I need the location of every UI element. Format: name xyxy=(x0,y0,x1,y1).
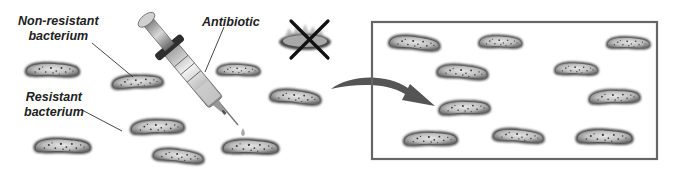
resistant-bacterium xyxy=(492,127,546,145)
resistant-leader-line xyxy=(82,110,122,131)
antibiotic-resistance-diagram: Non-resistant bacterium Resistant bacter… xyxy=(0,0,676,178)
resistant-bacterium xyxy=(436,62,490,81)
antibiotic-label-text: Antibiotic xyxy=(202,15,260,30)
bacterium xyxy=(25,62,81,78)
resistant-bacterium xyxy=(575,128,633,145)
resistant-bacteria-population xyxy=(388,33,651,148)
resistant-bacterium xyxy=(588,87,642,106)
non-resistant-label-line2: bacterium xyxy=(18,29,99,44)
antibiotic-drop xyxy=(241,128,245,136)
killed-bacterium xyxy=(279,21,331,58)
resistant-bacterium xyxy=(478,35,523,49)
bacterium xyxy=(221,138,279,155)
resistant-bacterium xyxy=(438,98,492,117)
bacterium xyxy=(33,137,91,154)
non-resistant-label: Non-resistant bacterium xyxy=(18,14,99,44)
non-resistant-leader-line xyxy=(92,43,133,77)
resistant-bacterium xyxy=(554,62,599,76)
diagram-canvas xyxy=(0,0,676,178)
antibiotic-label: Antibiotic xyxy=(202,15,260,30)
resistant-bacterium xyxy=(402,130,458,148)
bacterium xyxy=(269,87,323,107)
resistant-bacterium xyxy=(388,33,442,53)
resistant-label: Resistant bacterium xyxy=(24,90,84,120)
bacterium xyxy=(216,63,261,77)
bacterium xyxy=(151,146,205,166)
resistant-label-line2: bacterium xyxy=(24,105,84,120)
resistant-label-line1: Resistant xyxy=(24,90,84,105)
curved-arrow-icon xyxy=(331,78,435,106)
non-resistant-bacterium xyxy=(111,72,165,91)
resistant-bacterium xyxy=(606,36,651,50)
resistant-bacterium xyxy=(129,117,185,137)
non-resistant-label-line1: Non-resistant xyxy=(18,14,99,29)
